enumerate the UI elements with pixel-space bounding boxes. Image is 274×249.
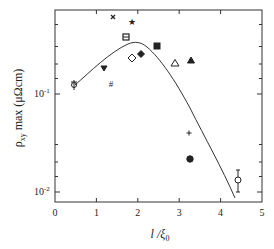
marker-plus bbox=[187, 131, 192, 136]
y-tick-label-top: 10-1 bbox=[34, 87, 50, 99]
marker-square-grid bbox=[123, 34, 129, 40]
marker-triangle-up-filled bbox=[188, 57, 195, 63]
theory-curve bbox=[75, 42, 235, 198]
marker-triangle-down bbox=[101, 66, 107, 71]
data-points: ★ # bbox=[71, 15, 241, 192]
marker-triangle-up-open bbox=[171, 60, 179, 67]
x-tick-label: 5 bbox=[260, 207, 265, 218]
x-tick-label: 3 bbox=[177, 207, 182, 218]
x-axis-label: l /ξ0 bbox=[151, 227, 170, 243]
marker-diamond-open bbox=[128, 54, 136, 62]
y-axis-ticks bbox=[55, 25, 262, 193]
marker-x bbox=[111, 15, 115, 19]
y-tick-labels: 10-1 10-2 bbox=[34, 87, 50, 197]
x-tick-labels: 0 1 2 3 4 5 bbox=[53, 207, 265, 218]
plot-frame bbox=[55, 10, 262, 202]
marker-square-filled bbox=[154, 43, 160, 49]
x-tick-label: 1 bbox=[94, 207, 99, 218]
marker-circle-cross bbox=[71, 80, 77, 90]
y-tick-label-bottom: 10-2 bbox=[34, 185, 50, 197]
x-tick-label: 4 bbox=[218, 207, 223, 218]
marker-circle-open-errorbar bbox=[235, 170, 241, 192]
x-tick-label: 0 bbox=[53, 207, 58, 218]
marker-star: ★ bbox=[128, 17, 136, 27]
x-axis-ticks bbox=[96, 10, 220, 202]
marker-diamond-filled bbox=[138, 51, 145, 58]
marker-hash: # bbox=[109, 79, 114, 89]
y-axis-label: ρxy max (μΩcm) bbox=[11, 69, 27, 148]
marker-circle-filled bbox=[187, 156, 193, 162]
x-tick-label: 2 bbox=[135, 207, 140, 218]
scatter-chart: 0 1 2 3 4 5 10-1 10-2 l /ξ0 ρxy max (μΩc… bbox=[0, 0, 274, 249]
